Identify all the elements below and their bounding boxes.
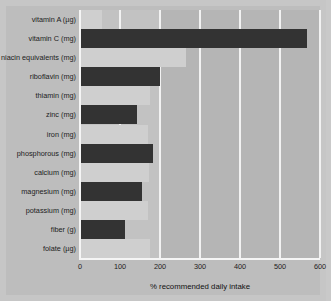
category-label-10: potassium (mg) [26, 206, 76, 216]
x-axis-line [80, 258, 320, 260]
category-label-4: thiamin (mg) [35, 91, 76, 101]
tick-label-200: 200 [145, 262, 175, 272]
bar-row [80, 67, 320, 86]
bar-vitamin [80, 10, 102, 29]
category-label-1: vitamin C (mg) [29, 34, 76, 44]
bar-row [80, 144, 320, 163]
bar-row [80, 10, 320, 29]
bar-zinc [80, 105, 137, 124]
category-label-12: folate (µg) [43, 244, 76, 254]
bar-iron [80, 125, 148, 144]
tick-label-500: 500 [265, 262, 295, 272]
category-label-5: zinc (mg) [46, 110, 76, 120]
category-label-9: magnesium (mg) [21, 187, 76, 197]
bar-row [80, 48, 320, 67]
category-label-0: vitamin A (µg) [32, 15, 76, 25]
bar-row [80, 105, 320, 124]
tick-label-600: 600 [305, 262, 331, 272]
category-label-11: fiber (g) [51, 225, 76, 235]
bar-row [80, 182, 320, 201]
bar-row [80, 29, 320, 48]
bar-folate [80, 239, 150, 258]
plot-area [80, 10, 320, 258]
tick-label-0: 0 [65, 262, 95, 272]
category-label-8: calcium (mg) [34, 168, 76, 178]
category-label-6: iron (mg) [47, 130, 76, 140]
x-axis-title: % recommended daily intake [80, 282, 320, 291]
bar-potassium [80, 201, 148, 220]
category-label-3: riboflavin (mg) [30, 72, 76, 82]
bar-fiber [80, 220, 125, 239]
bar-thiamin [80, 86, 150, 105]
bar-niacin [80, 48, 186, 67]
bar-calcium [80, 163, 149, 182]
bar-magnesium [80, 182, 142, 201]
tick-label-300: 300 [185, 262, 215, 272]
y-axis-line [79, 10, 81, 260]
tick-label-400: 400 [225, 262, 255, 272]
tick-label-100: 100 [105, 262, 135, 272]
bar-phosphorous [80, 144, 153, 163]
bar-row [80, 163, 320, 182]
bar-row [80, 125, 320, 144]
bar-vitamin [80, 29, 307, 48]
bar-row [80, 239, 320, 258]
bar-row [80, 220, 320, 239]
bar-riboflavin [80, 67, 160, 86]
category-label-7: phosphorous (mg) [17, 149, 76, 159]
bar-row [80, 86, 320, 105]
bar-row [80, 201, 320, 220]
category-label-2: niacin equivalents (mg) [1, 53, 76, 63]
